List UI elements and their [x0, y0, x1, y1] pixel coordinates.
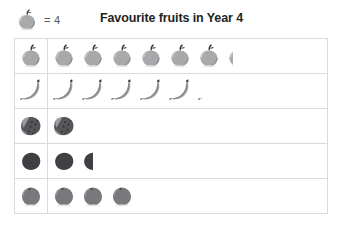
pictogram-body [15, 39, 328, 214]
apple-icon [108, 42, 136, 70]
table-row [15, 39, 328, 74]
table-row [15, 109, 328, 144]
row-data-banana [48, 74, 328, 109]
apple-icon [50, 42, 78, 70]
banana-icon [137, 77, 165, 105]
table-row [15, 144, 328, 179]
pictogram-table [14, 38, 328, 214]
row-label-peach [15, 179, 48, 214]
row-label-orange [15, 109, 48, 144]
orange-icon [17, 112, 45, 140]
row-label-banana [15, 74, 48, 109]
banana-icon [50, 77, 78, 105]
chart-header: = 4 Favourite fruits in Year 4 [0, 0, 343, 38]
apple-partial-icon [224, 42, 233, 70]
row-data-peach [48, 179, 328, 214]
banana-icon [108, 77, 136, 105]
apple-icon [195, 42, 223, 70]
plum-icon [50, 147, 78, 175]
chart-title: Favourite fruits in Year 4 [0, 11, 343, 25]
banana-icon [17, 77, 45, 105]
plum-icon [17, 147, 45, 175]
orange-icon [50, 112, 78, 140]
row-data-apple [48, 39, 328, 74]
row-label-apple [15, 39, 48, 74]
peach-icon [79, 182, 107, 210]
plum-symbol-row [48, 144, 327, 178]
banana-icon [79, 77, 107, 105]
banana-symbol-row [48, 74, 327, 108]
apple-icon [79, 42, 107, 70]
peach-symbol-row [48, 179, 327, 213]
peach-icon [108, 182, 136, 210]
plum-partial-icon [79, 147, 93, 175]
apple-icon [17, 42, 45, 70]
row-data-plum [48, 144, 328, 179]
apple-symbol-row [48, 39, 327, 73]
apple-icon [137, 42, 165, 70]
orange-symbol-row [48, 109, 327, 143]
row-label-plum [15, 144, 48, 179]
apple-icon [166, 42, 194, 70]
table-row [15, 74, 328, 109]
banana-icon [166, 77, 194, 105]
peach-icon [50, 182, 78, 210]
peach-icon [17, 182, 45, 210]
table-row [15, 179, 328, 214]
row-data-orange [48, 109, 328, 144]
banana-partial-icon [195, 77, 202, 105]
